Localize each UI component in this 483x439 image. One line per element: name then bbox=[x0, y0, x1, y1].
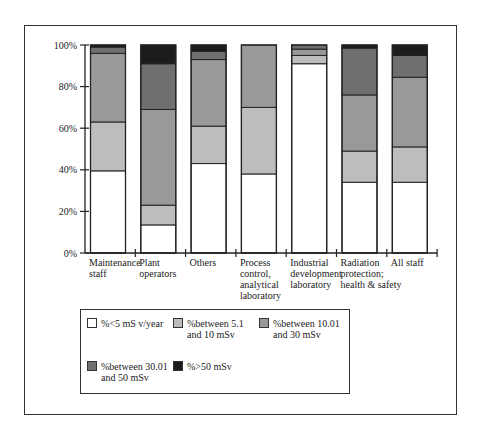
bar-segment bbox=[392, 55, 427, 77]
bar-segment bbox=[292, 49, 327, 55]
bar-segment bbox=[241, 174, 276, 253]
x-category-label: Maintenance staff bbox=[89, 257, 141, 279]
bar-segment bbox=[191, 126, 226, 163]
legend: %<5 mS v/year %between 5.1 and 10 mSv %b… bbox=[80, 309, 350, 394]
x-category-label: Others bbox=[190, 257, 217, 268]
x-category-label: Plant operators bbox=[139, 257, 176, 279]
bar-1 bbox=[141, 45, 176, 253]
y-tick-label: 100% bbox=[54, 40, 77, 51]
bar-segment bbox=[91, 47, 126, 53]
y-tick-label: 80% bbox=[59, 81, 77, 92]
legend-label: %>50 mSv bbox=[187, 361, 232, 372]
bar-segment bbox=[241, 107, 276, 174]
bar-segment bbox=[141, 205, 176, 225]
x-category-label: Industrial development laboratory bbox=[290, 257, 342, 290]
bar-segment bbox=[191, 51, 226, 59]
legend-label: %between 30.01 and 50 mSv bbox=[101, 361, 168, 383]
bar-segment bbox=[191, 164, 226, 253]
legend-label: %<5 mS v/year bbox=[101, 318, 163, 329]
bar-segment bbox=[141, 225, 176, 253]
legend-item-5-10: %between 5.1 and 10 mSv bbox=[173, 318, 244, 340]
legend-swatch-white-icon bbox=[87, 318, 97, 328]
legend-label: %between 10.01 and 30 mSv bbox=[273, 318, 340, 340]
legend-label: %between 5.1 and 10 mSv bbox=[187, 318, 244, 340]
bar-segment bbox=[91, 53, 126, 122]
bar-segment bbox=[342, 182, 377, 253]
bar-segment bbox=[392, 182, 427, 253]
x-category-label: All staff bbox=[391, 257, 424, 268]
bar-segment bbox=[342, 151, 377, 182]
bar-0 bbox=[91, 45, 126, 253]
bar-segment bbox=[292, 55, 327, 63]
bar-segment bbox=[292, 64, 327, 253]
legend-swatch-light-gray-icon bbox=[173, 318, 183, 328]
bar-segment bbox=[241, 45, 276, 107]
legend-item-gt50: %>50 mSv bbox=[173, 361, 232, 372]
bar-segment bbox=[392, 147, 427, 182]
bar-segment bbox=[141, 109, 176, 205]
bar-segment bbox=[342, 95, 377, 151]
y-tick-label: 20% bbox=[59, 206, 77, 217]
legend-item-10-30: %between 10.01 and 30 mSv bbox=[259, 318, 340, 340]
bar-segment bbox=[141, 64, 176, 110]
bar-segment bbox=[91, 122, 126, 171]
y-tick-label: 60% bbox=[59, 123, 77, 134]
legend-item-lt5: %<5 mS v/year bbox=[87, 318, 163, 329]
x-category-label: Process control, analytical laboratory bbox=[240, 257, 281, 301]
bar-segment bbox=[392, 77, 427, 147]
bar-6 bbox=[392, 45, 427, 253]
bars bbox=[91, 45, 428, 253]
legend-swatch-dark-gray-icon bbox=[87, 361, 97, 371]
legend-swatch-black-icon bbox=[173, 361, 183, 371]
y-tick-label: 40% bbox=[59, 164, 77, 175]
bar-segment bbox=[392, 45, 427, 55]
bar-segment bbox=[342, 48, 377, 95]
bar-segment bbox=[191, 60, 226, 127]
bar-3 bbox=[241, 45, 276, 253]
bar-4 bbox=[292, 45, 327, 253]
y-tick-label: 0% bbox=[64, 248, 77, 259]
legend-item-30-50: %between 30.01 and 50 mSv bbox=[87, 361, 168, 383]
bar-5 bbox=[342, 45, 377, 253]
bar-segment bbox=[91, 171, 126, 253]
legend-swatch-mid-gray-icon bbox=[259, 318, 269, 328]
bar-segment bbox=[141, 45, 176, 64]
bar-segment bbox=[191, 45, 226, 51]
y-axis: 0%20%40%60%80%100% bbox=[54, 40, 89, 259]
bar-2 bbox=[191, 45, 226, 253]
